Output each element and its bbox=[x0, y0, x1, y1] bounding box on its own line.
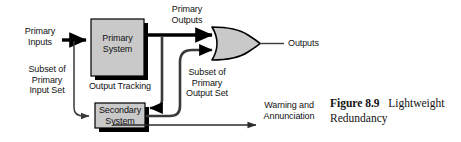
connection-output-tracking-to-secondary-system bbox=[150, 37, 162, 108]
label-subset-primary-input-set: Subset of Primary Input Set bbox=[18, 64, 76, 96]
label-outputs: Outputs bbox=[288, 38, 332, 49]
label-warning-and-annunciation: Warning and Annunciation bbox=[256, 100, 322, 121]
label-output-tracking: Output Tracking bbox=[79, 81, 161, 92]
figure-caption: Figure 8.9 Lightweight Redundancy bbox=[330, 96, 458, 126]
connection-primary-inputs-branch-to-secondary-system bbox=[74, 41, 89, 116]
or-gate bbox=[212, 27, 260, 60]
label-primary-inputs: Primary Inputs bbox=[14, 26, 66, 47]
figure-caption-number: Figure 8.9 bbox=[330, 97, 380, 109]
label-primary-outputs: Primary Outputs bbox=[160, 4, 214, 25]
figure-lightweight-redundancy: Primary System Secondary System Primary … bbox=[0, 0, 461, 142]
label-subset-primary-output-set: Subset of Primary Output Set bbox=[178, 67, 236, 99]
secondary-system-label: Secondary System bbox=[95, 105, 145, 127]
primary-system-label: Primary System bbox=[91, 33, 144, 55]
